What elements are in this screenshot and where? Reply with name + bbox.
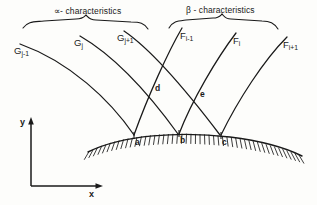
curve-label-g-j-minus-1: Gj-1 [14,46,29,56]
curve-label-subscript: i+1 [289,44,298,51]
curve-label-g-j-plus-1: Gj+1 [117,33,134,43]
x-axis-arrowhead [96,183,104,189]
curve-label-base: F [233,35,239,46]
diagram-canvas [0,0,317,205]
y-axis-arrowhead [28,117,34,125]
point-label-d: d [155,84,160,93]
curve-label-f-i-plus-1: Fi+1 [283,40,298,50]
alpha-characteristic-curves [20,31,220,135]
ground-surface-line [88,134,302,156]
beta-group-brace [169,14,278,29]
point-label-c: c [222,138,227,147]
point-label-a: a [135,138,140,147]
ground-surface [84,134,303,163]
curve-label-subscript: j+1 [124,37,133,44]
curve-f-i-plus-1 [221,37,287,135]
curve-g-j-minus-1 [20,44,134,135]
curve-label-f-i: Fi [233,36,240,46]
curve-label-f-i-minus-1: Fi-1 [180,31,193,41]
beta-characteristic-curves [134,28,287,135]
characteristics-diagram: ∝- characteristics β - characteristics G… [0,0,317,205]
curve-label-subscript: i-1 [186,35,194,42]
ground-hatching [84,134,303,163]
alpha-characteristics-title: ∝- characteristics [54,7,121,16]
curve-label-base: F [283,39,289,50]
beta-characteristics-title: β - characteristics [186,6,255,15]
x-axis-label: x [89,190,94,199]
curve-label-subscript: j-1 [21,50,29,57]
point-label-b: b [180,136,185,145]
point-label-e: e [200,90,205,99]
curve-label-g-j: Gj [74,38,83,48]
curve-label-subscript: j [81,42,83,49]
curve-g-j [80,36,178,134]
alpha-group-brace [23,15,148,29]
curve-label-base: F [180,30,186,41]
y-axis-label: y [20,118,25,127]
